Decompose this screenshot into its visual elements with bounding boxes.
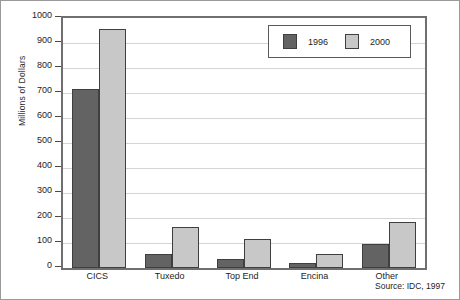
x-axis-tick-label: Encina [274,271,354,281]
legend-item-2000[interactable]: 2000 [345,34,390,49]
bar[interactable] [362,244,389,268]
source-note: Source: IDC, 1997 [375,281,445,291]
x-axis-tick-label: CICS [57,271,137,281]
y-axis-tick-label: 500 [37,135,52,145]
bar[interactable] [289,263,316,268]
bar[interactable] [99,29,126,268]
bar-group [145,18,199,268]
legend-swatch-icon-2000 [345,34,359,49]
bar[interactable] [316,254,343,268]
bar[interactable] [389,222,416,268]
chart-figure: Millions of Dollars 01002003004005006007… [0,0,460,300]
legend-swatch-icon-1996 [283,34,297,49]
legend-label-2000: 2000 [370,37,390,47]
x-axis-tick-label: Other [347,271,427,281]
bar[interactable] [244,239,271,268]
legend-label-1996: 1996 [308,37,328,47]
bar[interactable] [145,254,172,268]
legend: 1996 2000 [268,25,411,58]
y-axis-tick-label: 300 [37,185,52,195]
y-axis-tick-label: 400 [37,160,52,170]
y-axis-tick-label: 800 [37,60,52,70]
legend-item-1996[interactable]: 1996 [283,34,328,49]
bar[interactable] [217,259,244,268]
y-axis-title: Millions of Dollars [17,6,27,126]
x-axis-tick-label: Tuxedo [130,271,210,281]
bar[interactable] [172,227,199,268]
bar[interactable] [72,89,99,268]
y-axis-tick-label: 700 [37,85,52,95]
y-axis-tick-label: 1000 [32,10,52,20]
x-axis-tick-label: Top End [202,271,282,281]
bar-group [217,18,271,268]
y-axis-tick-label: 0 [47,260,52,270]
y-axis-tick-label: 200 [37,210,52,220]
y-axis-tick-label: 900 [37,35,52,45]
bar-group [72,18,126,268]
y-axis-tick-label: 600 [37,110,52,120]
y-axis-tick-label: 100 [37,235,52,245]
